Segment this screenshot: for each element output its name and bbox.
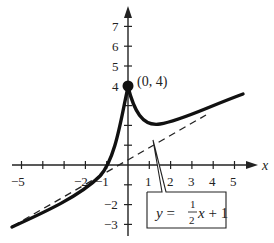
x-tick-label: 5 bbox=[230, 174, 237, 189]
x-tick-label: 2 bbox=[167, 174, 174, 189]
y-tick-label: −3 bbox=[104, 217, 118, 232]
y-axis-arrow-icon bbox=[124, 6, 132, 18]
x-axis-label: x bbox=[261, 158, 269, 173]
point-label: (0, 4) bbox=[137, 74, 168, 90]
equation-fraction-numerator: 1 bbox=[190, 198, 196, 210]
x-tick-label: 4 bbox=[209, 174, 216, 189]
graph-figure: −5 −2 −1 1 2 3 4 5 x bbox=[0, 0, 274, 243]
y-tick-label: 4 bbox=[112, 79, 119, 94]
y-tick-label: 7 bbox=[112, 19, 119, 34]
x-tick-label: −5 bbox=[11, 174, 25, 189]
y-tick-label: 6 bbox=[112, 39, 119, 54]
x-axis-arrow-icon bbox=[246, 161, 258, 169]
equation-label: y = bbox=[154, 205, 175, 221]
x-tick-label: 1 bbox=[145, 174, 152, 189]
x-axis: −5 −2 −1 1 2 3 4 5 x bbox=[11, 158, 269, 189]
y-axis: 7 6 5 4 −2 −3 bbox=[104, 6, 132, 236]
equation-fraction-denominator: 2 bbox=[189, 214, 195, 226]
y-tick-label: −2 bbox=[104, 197, 118, 212]
y-tick-label: 5 bbox=[112, 59, 119, 74]
equation-tail: x + 1 bbox=[197, 205, 228, 221]
graph-canvas: −5 −2 −1 1 2 3 4 5 x bbox=[0, 0, 274, 243]
x-tick-label: 3 bbox=[188, 174, 195, 189]
point-marker bbox=[123, 81, 134, 92]
